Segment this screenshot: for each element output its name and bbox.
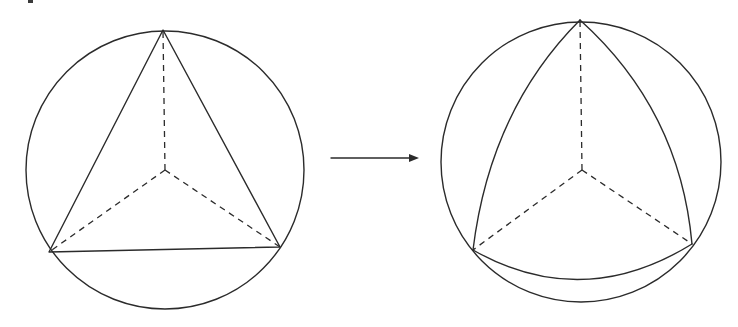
right-radius-bottom-right xyxy=(582,170,692,244)
right-figure-spherical-triangle xyxy=(441,20,721,302)
arrow-head-icon xyxy=(409,154,419,162)
cropped-label-artifact xyxy=(28,0,33,3)
right-radius-top xyxy=(580,20,582,170)
left-radius-bottom-left xyxy=(49,170,165,252)
left-planar-triangle xyxy=(49,30,280,252)
left-figure-planar-triangle xyxy=(26,30,304,309)
transform-arrow xyxy=(331,154,419,162)
left-radius-bottom-right xyxy=(165,170,280,247)
right-arc-left-edge xyxy=(473,20,580,250)
right-arc-bottom-edge xyxy=(473,244,692,280)
sphere-triangle-diagram xyxy=(0,0,738,327)
right-circle xyxy=(441,22,721,302)
right-radius-bottom-left xyxy=(473,170,582,250)
left-radius-top xyxy=(163,30,165,170)
right-arc-right-edge xyxy=(580,20,692,244)
